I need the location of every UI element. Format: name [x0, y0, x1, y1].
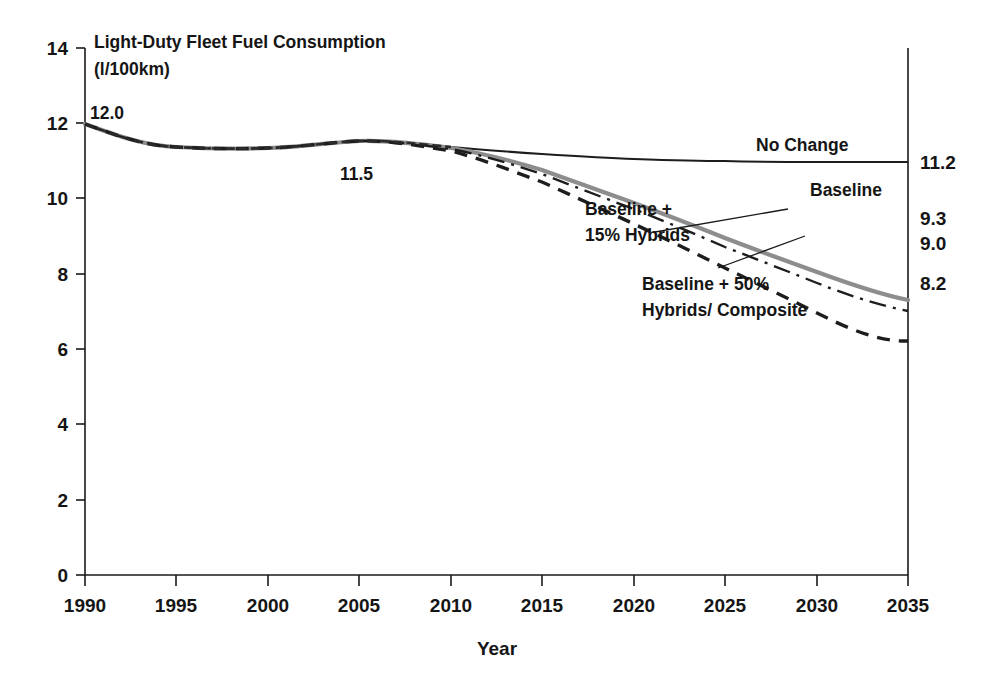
x-tick-label-2030: 2030: [796, 595, 838, 616]
y-tick-label-4: 4: [57, 414, 68, 435]
x-tick-label-2005: 2005: [338, 595, 381, 616]
end-label-baseline-15-hybrids: 9.0: [920, 233, 946, 254]
y-tick-label-10: 10: [47, 188, 68, 209]
y-tick-label-6: 6: [57, 339, 68, 360]
x-tick-label-2035: 2035: [887, 595, 930, 616]
fuel-consumption-line-chart: 14 12 10 8 6 4 2 0 1990 1995 2000 2005 2…: [0, 0, 998, 674]
x-tick-label-2015: 2015: [521, 595, 564, 616]
x-tick-label-1990: 1990: [64, 595, 106, 616]
chart-container: 14 12 10 8 6 4 2 0 1990 1995 2000 2005 2…: [0, 0, 998, 674]
y-tick-label-0: 0: [57, 565, 68, 586]
y-tick-label-14: 14: [47, 38, 69, 59]
chart-title: Light-Duty Fleet Fuel Consumption: [94, 32, 386, 52]
series-historical-overlay: [85, 124, 451, 149]
x-tick-label-2025: 2025: [704, 595, 747, 616]
x-axis-ticks: 1990 1995 2000 2005 2010 2015 2020 2025 …: [64, 575, 930, 616]
end-label-no-change: 11.2: [920, 152, 956, 173]
series-label-no-change: No Change: [756, 135, 849, 155]
chart-subtitle-units: (l/100km): [94, 59, 170, 79]
x-tick-label-2000: 2000: [247, 595, 289, 616]
y-tick-label-12: 12: [47, 113, 68, 134]
data-label-mid-2005: 11.5: [340, 164, 373, 184]
end-value-labels: 11.2 9.3 9.0 8.2: [920, 152, 956, 294]
x-tick-label-2020: 2020: [613, 595, 655, 616]
y-tick-label-2: 2: [57, 490, 68, 511]
end-label-baseline: 9.3: [920, 208, 946, 229]
data-label-start-1990: 12.0: [90, 103, 124, 123]
y-axis-ticks: 14 12 10 8 6 4 2 0: [47, 38, 85, 586]
series-label-baseline-50-hybrids-line1: Baseline + 50%: [642, 274, 769, 294]
x-tick-label-1995: 1995: [155, 595, 198, 616]
x-tick-label-2010: 2010: [430, 595, 472, 616]
end-label-baseline-50-hybrids: 8.2: [920, 273, 946, 294]
series-label-baseline-15-hybrids-line1: Baseline +: [585, 199, 672, 219]
x-axis-title: Year: [477, 638, 518, 659]
series-label-baseline-15-hybrids-line2: 15% Hybrids: [585, 225, 690, 245]
series-label-baseline-50-hybrids-line2: Hybrids/ Composite: [642, 300, 808, 320]
series-label-baseline: Baseline: [810, 180, 882, 200]
y-tick-label-8: 8: [57, 264, 68, 285]
